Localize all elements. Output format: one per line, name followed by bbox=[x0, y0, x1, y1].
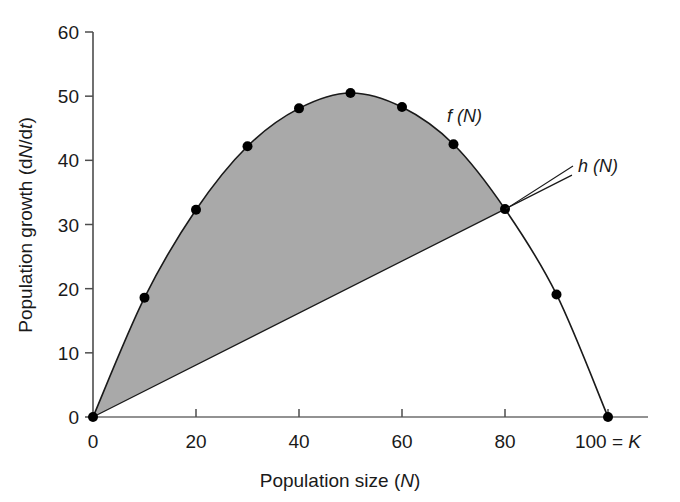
x-tick-label-20: 20 bbox=[185, 431, 206, 452]
h-label-leader-line bbox=[506, 166, 573, 209]
data-point-n-100 bbox=[603, 412, 613, 422]
x-axis-title: Population size (N) bbox=[260, 470, 421, 491]
shaded-surplus-region bbox=[93, 93, 505, 417]
figure-container: 0102030405060 020406080100 = K f (N) h (… bbox=[0, 0, 680, 502]
x-tick-label-80: 80 bbox=[494, 431, 515, 452]
data-point-n-0 bbox=[88, 412, 98, 422]
x-tick-label-0: 0 bbox=[88, 431, 99, 452]
data-point-n-70 bbox=[449, 139, 459, 149]
y-axis-ticks bbox=[85, 32, 93, 417]
x-axis-ticks bbox=[196, 409, 608, 417]
y-tick-label-10: 10 bbox=[58, 343, 79, 364]
population-growth-chart: 0102030405060 020406080100 = K f (N) h (… bbox=[0, 0, 680, 502]
data-point-n-20 bbox=[191, 205, 201, 215]
y-tick-label-60: 60 bbox=[58, 22, 79, 43]
y-tick-label-20: 20 bbox=[58, 279, 79, 300]
data-point-n-80 bbox=[500, 204, 510, 214]
data-point-n-10 bbox=[140, 293, 150, 303]
x-tick-label-40: 40 bbox=[288, 431, 309, 452]
data-point-n-60 bbox=[397, 102, 407, 112]
data-point-n-90 bbox=[552, 289, 562, 299]
y-axis-tick-labels: 0102030405060 bbox=[58, 22, 79, 428]
x-tick-label-60: 60 bbox=[391, 431, 412, 452]
y-tick-label-0: 0 bbox=[68, 407, 79, 428]
y-axis-title: Population growth (dN/dt) bbox=[15, 117, 36, 332]
y-tick-label-30: 30 bbox=[58, 215, 79, 236]
data-point-n-50 bbox=[346, 88, 356, 98]
x-axis-tick-labels: 020406080100 = K bbox=[88, 431, 643, 452]
data-point-n-30 bbox=[243, 141, 253, 151]
y-tick-label-50: 50 bbox=[58, 86, 79, 107]
curve-label-f-n: f (N) bbox=[447, 106, 482, 126]
y-tick-label-40: 40 bbox=[58, 150, 79, 171]
data-point-n-40 bbox=[294, 103, 304, 113]
x-tick-label-100: 100 = K bbox=[575, 431, 642, 452]
curve-label-h-n: h (N) bbox=[578, 156, 618, 176]
